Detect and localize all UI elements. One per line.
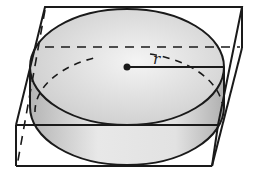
- cylinder-in-box-diagram: r: [0, 0, 254, 173]
- radius-label: r: [153, 50, 161, 68]
